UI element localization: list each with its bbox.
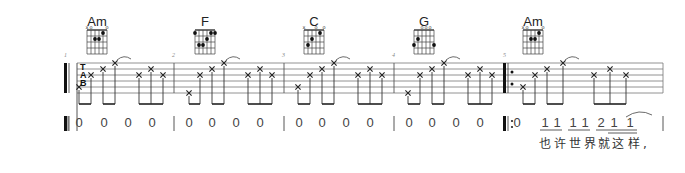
tab-note-x (607, 66, 612, 104)
tab-note-x (379, 72, 384, 104)
measure-numbers: 12345 (64, 52, 506, 58)
jianpu-repeat-bar (503, 116, 506, 131)
lyrics: 也许世界就这样, (539, 136, 647, 151)
svg-text:x: x (303, 24, 306, 30)
jianpu-note: 0 (148, 115, 155, 130)
finger-dot (93, 37, 97, 41)
jianpu-note: 2 (597, 115, 604, 130)
tab-note-x (257, 66, 262, 104)
tab-note-x (441, 57, 460, 104)
svg-text:o: o (322, 24, 325, 30)
tie-arc (446, 57, 460, 60)
tab-note-x (591, 72, 596, 104)
measure-number: 1 (64, 52, 67, 58)
jianpu-note: 0 (75, 115, 82, 130)
svg-text:o: o (541, 24, 544, 30)
tab-note-x (405, 90, 410, 104)
tab-note-x (355, 72, 360, 104)
tab-note-x (112, 57, 131, 104)
repeat-dot (511, 83, 514, 86)
tab-note-x (269, 72, 274, 104)
tab-note-x (100, 66, 105, 104)
finger-dot (416, 37, 420, 41)
finger-dot (205, 37, 209, 41)
tab-note-x (197, 72, 202, 104)
svg-text:o: o (420, 24, 423, 30)
finger-dot (306, 43, 310, 47)
jianpu-note: 0 (208, 115, 215, 130)
tab-note-x (623, 72, 628, 104)
finger-dot (412, 43, 416, 47)
measure-number: 4 (392, 52, 395, 58)
jianpu-note: 0 (476, 115, 483, 130)
svg-text:o: o (89, 24, 92, 30)
jianpu-note: 1 (553, 115, 560, 130)
repeat-start-barline (503, 63, 506, 93)
chord-diagram-g: Gooo (412, 14, 436, 54)
finger-dot (201, 43, 205, 47)
jianpu-note: 0 (185, 115, 192, 130)
measure-number: 3 (281, 52, 285, 58)
tie-arc (117, 57, 131, 60)
jianpu-note: 0 (256, 115, 263, 130)
tab-note-x (186, 90, 191, 104)
tab-note-x (319, 66, 324, 104)
finger-dot (209, 31, 213, 35)
tab-note-x (489, 72, 494, 104)
svg-text:o: o (105, 24, 108, 30)
chord-name: F (201, 14, 209, 29)
jianpu-note: 1 (610, 115, 617, 130)
jianpu-note: 1 (626, 115, 633, 130)
finger-dot (97, 37, 101, 41)
finger-dot (537, 31, 541, 35)
chord-diagram-c: Cxoo (303, 14, 326, 54)
tab-note-x (209, 66, 214, 104)
jianpu-note: 0 (295, 115, 302, 130)
chord-diagram-am: Amxoo (522, 14, 545, 54)
jianpu-start-bar (64, 116, 67, 131)
finger-dot (533, 37, 537, 41)
tab-notes (76, 57, 628, 104)
tab-note-x (88, 72, 93, 104)
finger-dot (318, 31, 322, 35)
jianpu-note: 0 (232, 115, 239, 130)
tie-arc (336, 57, 350, 60)
chord-diagram-am: Amxoo (86, 14, 109, 54)
lyric-char: , (643, 137, 647, 151)
jianpu-note: 1 (541, 115, 548, 130)
tab-note-x (477, 66, 482, 104)
svg-text:o: o (525, 24, 528, 30)
jianpu-note: 0 (428, 115, 435, 130)
jianpu-note: 0 (405, 115, 412, 130)
tab-note-x (148, 66, 153, 104)
measure-number: 2 (172, 52, 175, 58)
jianpu-note: 0 (124, 115, 131, 130)
lyric-char: 这 (612, 136, 624, 151)
finger-dot (193, 31, 197, 35)
guitar-tab-score: AmxooFCxooGoooAmxoo 12345 TAB 0000000000… (0, 0, 685, 173)
jianpu-note: 0 (318, 115, 325, 130)
tab-note-x (307, 72, 312, 104)
jianpu-note: 1 (569, 115, 576, 130)
tab-note-x (245, 72, 250, 104)
jianpu-note: 0 (342, 115, 349, 130)
tab-note-x (331, 57, 350, 104)
svg-text:o: o (314, 24, 317, 30)
tab-note-x (221, 57, 240, 104)
tab-note-x (367, 66, 372, 104)
tab-note-x (465, 72, 470, 104)
lyric-char: 许 (554, 137, 566, 151)
chord-diagram-f: F (193, 14, 217, 54)
finger-dot (432, 43, 436, 47)
jianpu-note: 0 (366, 115, 373, 130)
tab-note-x (136, 72, 141, 104)
jianpu-note: 1 (581, 115, 588, 130)
finger-dot (310, 37, 314, 41)
tab-note-x (560, 57, 579, 104)
tab-note-x (417, 72, 422, 104)
lyric-char: 界 (584, 137, 596, 151)
start-barline (64, 63, 67, 93)
svg-text:x: x (522, 24, 525, 30)
tab-note-x (160, 72, 165, 104)
lyric-char: 样 (628, 136, 640, 151)
